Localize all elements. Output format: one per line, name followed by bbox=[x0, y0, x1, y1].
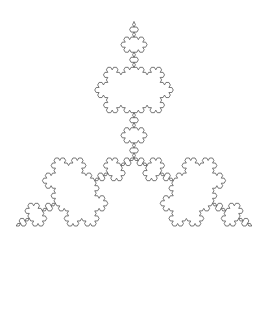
koch-snowflake-figure bbox=[0, 0, 267, 309]
fractal-canvas bbox=[0, 0, 267, 309]
